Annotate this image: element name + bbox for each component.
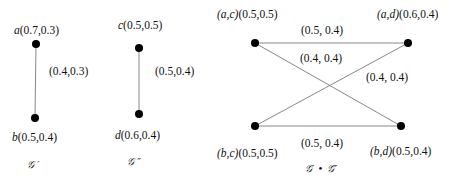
node-a bbox=[32, 40, 40, 48]
graph-g2-caption: 𝒢 ″ bbox=[127, 157, 141, 167]
node-b bbox=[31, 114, 39, 122]
edge-ac-ad-label: (0.5, 0.4) bbox=[301, 25, 343, 37]
node-d-label: d(0.6,0.4) bbox=[115, 130, 160, 142]
node-d bbox=[135, 110, 143, 118]
node-ad bbox=[404, 39, 412, 47]
edge-a-b-label: (0.4,0.3) bbox=[49, 66, 88, 78]
edge-c-d-label: (0.5,0.4) bbox=[155, 66, 194, 78]
node-bc bbox=[251, 122, 259, 130]
node-c bbox=[135, 44, 143, 52]
edge-ac-bd-label: (0.4, 0.4) bbox=[300, 53, 342, 65]
edge-bc-bd-label: (0.5, 0.4) bbox=[301, 138, 343, 150]
edge-ad-bc-label: (0.4, 0.4) bbox=[366, 72, 408, 84]
edge-a-b bbox=[35, 44, 36, 118]
node-ac-label: (a,c)(0.5,0.5) bbox=[217, 9, 278, 21]
graph-g1-caption: 𝒢 ′ bbox=[27, 160, 39, 170]
node-ad-label: (a,d)(0.6,0.4) bbox=[377, 9, 438, 21]
node-b-label: b(0.5,0.4) bbox=[12, 132, 57, 144]
node-bd bbox=[397, 122, 405, 130]
node-bc-label: (b,c)(0.5,0.5) bbox=[217, 148, 278, 160]
node-c-label: c(0.5,0.5) bbox=[118, 20, 162, 32]
node-a-label: a(0.7,0.3) bbox=[14, 25, 59, 37]
node-bd-label: (b,d)(0.5,0.4) bbox=[370, 146, 431, 158]
graph-product-caption: 𝒢′ • 𝒢″ bbox=[305, 164, 337, 174]
node-ac bbox=[251, 39, 259, 47]
